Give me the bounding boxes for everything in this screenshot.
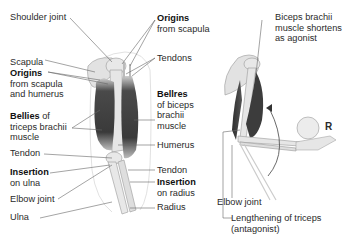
label-scapula: Scapula	[10, 57, 43, 68]
label-biceps-agonist: Biceps brachii muscle shortens as agonis…	[275, 12, 342, 44]
label-text: (antagonist)	[231, 224, 280, 234]
label-bold: Insertion	[157, 177, 196, 187]
label-bold: Insertion	[10, 167, 49, 177]
label-text: Biceps brachii	[275, 12, 332, 22]
label-origins-scapula-humerus: Origins from scapula and humerus	[10, 68, 64, 100]
label-ulna: Ulna	[10, 212, 29, 223]
label-tendon-left: Tendon	[10, 148, 40, 159]
label-text: on radius	[157, 188, 195, 198]
label-text: brachii	[157, 110, 184, 120]
label-text: of	[40, 111, 50, 121]
label-radius: Radius	[157, 202, 186, 213]
biceps-belly	[121, 76, 138, 158]
resistance-ball	[297, 117, 319, 139]
left-arm-figure	[88, 52, 152, 214]
label-bellies-triceps: Bellies of triceps brachii muscle	[10, 111, 67, 143]
label-text: from scapula	[157, 24, 210, 34]
label-bold: Origins	[10, 68, 42, 78]
right-arm-figure	[223, 20, 336, 218]
label-text: muscle	[10, 132, 39, 142]
triceps-belly	[94, 78, 114, 150]
label-insertion-radius: Insertion on radius	[157, 177, 196, 198]
label-text: as agonist	[275, 33, 317, 43]
label-text: triceps brachii	[10, 122, 67, 132]
label-insertion-ulna: Insertion on ulna	[10, 167, 49, 188]
label-text: muscle shortens	[275, 23, 342, 33]
label-bold: Origins	[157, 13, 189, 23]
label-triceps-antagonist: Lengthening of triceps (antagonist)	[231, 213, 321, 234]
label-text: and humerus	[10, 89, 64, 99]
label-humerus: Humerus	[157, 140, 194, 151]
label-shoulder-joint: Shoulder joint	[10, 12, 66, 23]
label-text: from scapula	[10, 79, 63, 89]
label-bellies-biceps: Bellres of biceps brachii muscle	[157, 89, 194, 131]
label-origins-scapula: Origins from scapula	[157, 13, 210, 34]
label-text: Lengthening of triceps	[231, 213, 321, 223]
label-elbow-joint-right: Elbow joint	[217, 197, 261, 208]
label-text: muscle	[157, 121, 186, 131]
label-bold: Bellies	[10, 111, 40, 121]
label-bold: Bellres	[157, 89, 188, 99]
label-text: of biceps	[157, 100, 194, 110]
label-text: on ulna	[10, 178, 40, 188]
label-elbow-joint-left: Elbow joint	[10, 194, 54, 205]
label-tendon-right: Tendon	[157, 165, 187, 176]
label-resistance: R	[325, 122, 332, 133]
label-tendons: Tendons	[157, 53, 192, 64]
